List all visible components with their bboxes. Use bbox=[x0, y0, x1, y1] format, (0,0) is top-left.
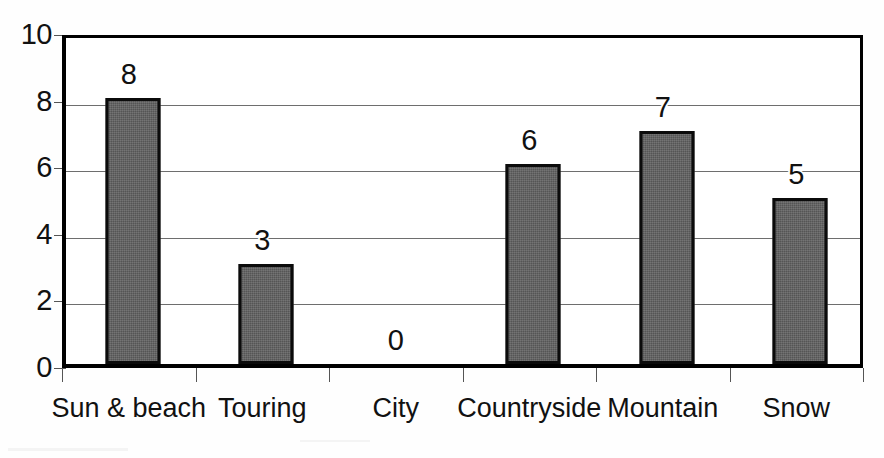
bar-value-label: 7 bbox=[655, 93, 671, 122]
x-tick-mark bbox=[596, 368, 597, 382]
x-category-label: Mountain bbox=[607, 392, 718, 424]
bar[interactable] bbox=[773, 198, 828, 365]
x-category-label: Touring bbox=[218, 392, 307, 424]
bar[interactable] bbox=[639, 131, 694, 364]
bar-slot bbox=[200, 38, 334, 364]
y-tick-label: 2 bbox=[0, 286, 52, 315]
y-tick-label: 8 bbox=[0, 87, 52, 116]
bar-value-label: 6 bbox=[521, 126, 537, 155]
x-category-label: City bbox=[373, 392, 420, 424]
bar-value-label: 8 bbox=[121, 60, 137, 89]
x-category-label: Snow bbox=[762, 392, 830, 424]
y-tick-label: 6 bbox=[0, 153, 52, 182]
x-tick-mark bbox=[62, 368, 63, 382]
bar[interactable] bbox=[105, 98, 160, 364]
bar-slot bbox=[333, 38, 467, 364]
bar[interactable] bbox=[506, 164, 561, 364]
y-tick-mark bbox=[54, 368, 66, 369]
bar-value-label: 0 bbox=[388, 326, 404, 355]
bar-slot bbox=[600, 38, 734, 364]
y-tick-label: 0 bbox=[0, 353, 52, 382]
x-tick-mark bbox=[863, 368, 864, 382]
scan-artifact bbox=[300, 440, 370, 442]
x-category-label: Countryside bbox=[457, 392, 601, 424]
x-category-label: Sun & beach bbox=[51, 392, 206, 424]
x-tick-mark bbox=[463, 368, 464, 382]
bar-slot bbox=[467, 38, 601, 364]
bars-layer bbox=[66, 38, 860, 364]
y-tick-label: 4 bbox=[0, 220, 52, 249]
bar[interactable] bbox=[239, 264, 294, 364]
bar-chart: 0246810 Sun & beachTouringCityCountrysid… bbox=[0, 0, 884, 458]
plot-area bbox=[62, 35, 863, 368]
scan-artifact bbox=[8, 448, 128, 451]
y-tick-label: 10 bbox=[0, 20, 52, 49]
x-tick-mark bbox=[329, 368, 330, 382]
bar-value-label: 3 bbox=[254, 226, 270, 255]
bar-value-label: 5 bbox=[788, 160, 804, 189]
x-tick-mark bbox=[196, 368, 197, 382]
x-tick-mark bbox=[730, 368, 731, 382]
bar-slot bbox=[734, 38, 868, 364]
